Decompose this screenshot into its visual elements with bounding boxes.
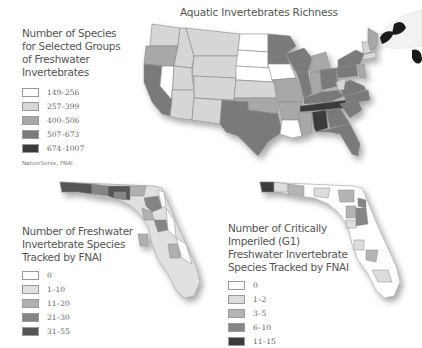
florida-tracked-legend: Number of Freshwater Invertebrate Specie… bbox=[22, 225, 133, 338]
florida-imperiled-legend-title: Number of Critically Imperiled (G1) Fres… bbox=[228, 222, 349, 274]
legend-item: 1–2 bbox=[228, 292, 349, 306]
legend-item: 674–1007 bbox=[22, 141, 120, 155]
legend-item: 0 bbox=[22, 268, 133, 282]
legend-item: 149–256 bbox=[22, 85, 120, 99]
legend-swatch bbox=[228, 281, 245, 290]
legend-swatch bbox=[228, 337, 245, 346]
us-map-legend: Number of Species for Selected Groups of… bbox=[22, 27, 120, 166]
legend-item: 21–30 bbox=[22, 310, 133, 324]
legend-swatch bbox=[228, 295, 245, 304]
florida-imperiled-legend: Number of Critically Imperiled (G1) Fres… bbox=[228, 222, 349, 348]
legend-item: 257–399 bbox=[22, 99, 120, 113]
legend-swatch bbox=[22, 130, 39, 139]
us-map-title: Aquatic Invertebrates Richness bbox=[180, 6, 338, 18]
legend-swatch bbox=[22, 285, 39, 294]
koi-fish-illustration bbox=[372, 6, 422, 76]
legend-item: 3–5 bbox=[228, 306, 349, 320]
legend-swatch bbox=[22, 327, 39, 336]
legend-swatch bbox=[22, 102, 39, 111]
legend-item: 6–10 bbox=[228, 320, 349, 334]
legend-swatch bbox=[22, 299, 39, 308]
legend-swatch bbox=[228, 323, 245, 332]
us-richness-map bbox=[140, 20, 380, 180]
legend-swatch bbox=[22, 271, 39, 280]
legend-item: 1–10 bbox=[22, 282, 133, 296]
legend-item: 31–55 bbox=[22, 324, 133, 338]
legend-swatch bbox=[22, 313, 39, 322]
legend-item: 0 bbox=[228, 278, 349, 292]
legend-swatch bbox=[22, 144, 39, 153]
legend-item: 11–15 bbox=[228, 334, 349, 348]
florida-tracked-legend-title: Number of Freshwater Invertebrate Specie… bbox=[22, 225, 133, 264]
source-credit: NatureServe, FNAI bbox=[22, 160, 120, 166]
us-legend-title: Number of Species for Selected Groups of… bbox=[22, 27, 120, 79]
legend-item: 507–673 bbox=[22, 127, 120, 141]
legend-swatch bbox=[228, 309, 245, 318]
legend-item: 400–506 bbox=[22, 113, 120, 127]
legend-swatch bbox=[22, 88, 39, 97]
legend-swatch bbox=[22, 116, 39, 125]
legend-item: 11–20 bbox=[22, 296, 133, 310]
